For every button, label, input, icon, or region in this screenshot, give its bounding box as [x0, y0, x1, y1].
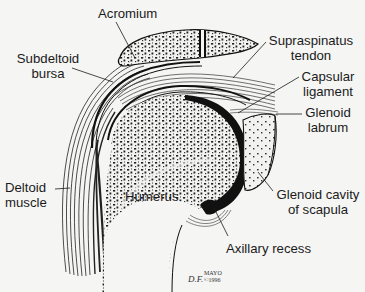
label-axillary-recess: Axillary recess: [226, 241, 311, 256]
label-line: bursa: [14, 66, 82, 81]
label-line: Glenoid: [302, 105, 354, 120]
label-line: labrum: [302, 120, 354, 135]
label-glenoid-labrum: Glenoid labrum: [302, 105, 354, 135]
label-glenoid-cavity: Glenoid cavity of scapula: [272, 187, 364, 217]
signature-copyright: ©1996: [204, 277, 221, 283]
label-line: of scapula: [272, 202, 364, 217]
label-humerus: Humerus: [125, 189, 179, 204]
label-supraspinatus-tendon: Supraspinatus tendon: [265, 33, 357, 63]
acromion-bone: [118, 30, 258, 66]
label-subdeltoid-bursa: Subdeltoid bursa: [14, 51, 82, 81]
label-deltoid-muscle: Deltoid muscle: [5, 180, 47, 210]
shoulder-diagram: Acromium Subdeltoid bursa Supraspinatus …: [0, 0, 365, 292]
label-capsular-ligament: Capsular ligament: [298, 69, 358, 99]
label-line: Capsular: [298, 69, 358, 84]
label-line: ligament: [298, 84, 358, 99]
glenoid-labrum-fibers: [230, 109, 278, 115]
label-line: Glenoid cavity: [272, 187, 364, 202]
label-acromium: Acromium: [98, 6, 157, 21]
signature-initials: D.F.: [188, 274, 203, 284]
label-line: Subdeltoid: [14, 51, 82, 66]
label-line: tendon: [265, 48, 357, 63]
label-line: Supraspinatus: [265, 33, 357, 48]
signature-name: MAYO: [204, 270, 222, 276]
scapula-bone: [243, 114, 276, 190]
label-line: Deltoid: [5, 180, 47, 195]
label-line: muscle: [5, 195, 47, 210]
